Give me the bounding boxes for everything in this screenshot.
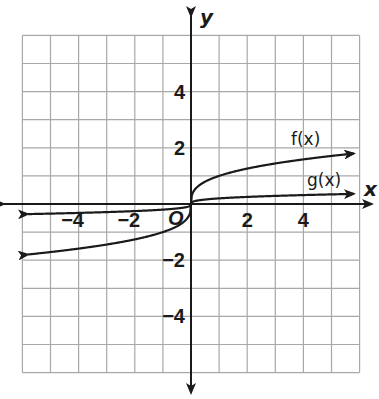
coordinate-plane: −4−22442−2−4 x y O f(x) g(x) xyxy=(0,0,379,399)
y-tick-label: 4 xyxy=(174,81,186,103)
x-tick-label: 2 xyxy=(242,209,253,231)
y-tick-label: 2 xyxy=(174,137,185,159)
origin-label: O xyxy=(168,207,184,229)
x-tick-label: 4 xyxy=(298,209,310,231)
f-of-x-label: f(x) xyxy=(291,129,320,149)
y-tick-label: −4 xyxy=(162,305,186,327)
x-axis-label: x xyxy=(363,177,378,201)
g-of-x-label: g(x) xyxy=(307,170,341,190)
y-axis-label: y xyxy=(200,5,214,29)
y-tick-label: −2 xyxy=(162,249,185,271)
